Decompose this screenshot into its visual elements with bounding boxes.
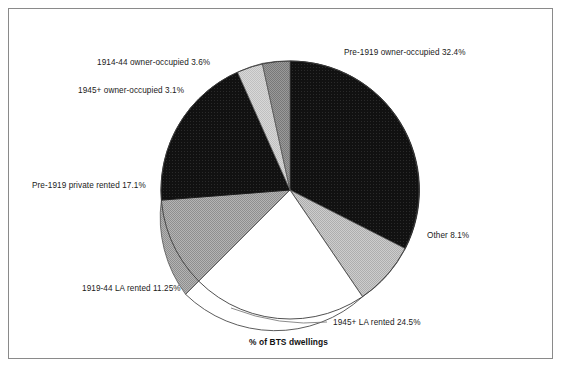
chart-page: Pre-1919 owner-occupied 32.4% 1914-44 ow… — [0, 0, 563, 369]
pie-chart-figure: Pre-1919 owner-occupied 32.4% 1914-44 ow… — [0, 0, 563, 369]
chart-axis-title: % of BTS dwellings — [249, 337, 328, 347]
pie-label-pre-1919-owner-occupied: Pre-1919 owner-occupied 32.4% — [344, 47, 466, 58]
pie-label-1914-44-owner-occupied: 1914-44 owner-occupied 3.6% — [97, 57, 210, 68]
pie-label-1919-44-la-rented: 1919-44 LA rented 11.25% — [82, 283, 181, 294]
pie-label-other: Other 8.1% — [427, 230, 469, 241]
pie-label-pre-1919-private-rented: Pre-1919 private rented 17.1% — [32, 180, 146, 191]
pie-label-1945-plus-la-rented: 1945+ LA rented 24.5% — [333, 317, 421, 328]
pie-label-1945-plus-owner-occupied: 1945+ owner-occupied 3.1% — [78, 85, 184, 96]
